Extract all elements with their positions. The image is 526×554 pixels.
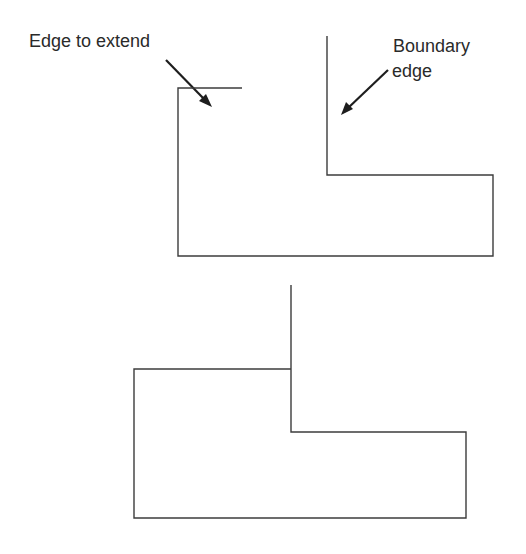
figure-before xyxy=(178,36,493,256)
arrow-edge-to-extend-icon xyxy=(166,60,212,107)
label-edge-to-extend: Edge to extend xyxy=(29,31,150,51)
figure-after xyxy=(134,285,466,518)
diagram-canvas: Edge to extend Boundary edge xyxy=(0,0,526,554)
label-boundary-line1: Boundary xyxy=(393,36,470,56)
label-boundary-line2: edge xyxy=(392,61,432,81)
shape-outline-after xyxy=(134,285,466,518)
arrow-boundary-edge-icon xyxy=(341,70,388,115)
shape-outline-before xyxy=(178,36,493,256)
